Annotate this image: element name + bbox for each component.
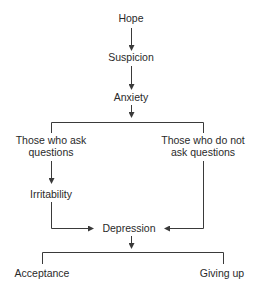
- arrow-irritability-depression: [52, 202, 94, 229]
- node-suspicion: Suspicion: [108, 51, 154, 63]
- node-ask-line1: Those who ask: [16, 134, 87, 146]
- node-not-ask-line2: ask questions: [171, 146, 235, 158]
- node-not-ask-line1: Those who do not: [161, 134, 244, 146]
- arrow-notask-depression: [165, 161, 204, 229]
- split-bracket-questions: [52, 123, 204, 134]
- node-depression: Depression: [102, 222, 155, 234]
- split-bracket-outcomes: [43, 253, 224, 265]
- node-anxiety: Anxiety: [114, 91, 148, 103]
- node-acceptance: Acceptance: [15, 267, 70, 279]
- node-giving-up: Giving up: [200, 267, 244, 279]
- node-hope: Hope: [118, 12, 143, 24]
- node-irritability: Irritability: [30, 188, 72, 200]
- node-ask-line2: questions: [29, 146, 74, 158]
